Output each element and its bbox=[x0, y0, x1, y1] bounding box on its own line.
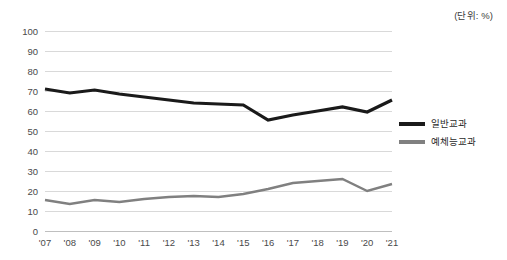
y-axis-tick-label: 30 bbox=[27, 166, 38, 177]
x-axis-tick-label: '19 bbox=[336, 237, 348, 248]
x-axis-tick-label: '08 bbox=[64, 237, 76, 248]
x-axis-tick-label: '18 bbox=[311, 237, 323, 248]
y-axis-tick-label: 50 bbox=[27, 126, 38, 137]
data-series-group bbox=[45, 89, 392, 204]
x-axis-tick-label: '20 bbox=[361, 237, 373, 248]
x-axis-tick-label: '13 bbox=[188, 237, 200, 248]
y-axis-tick-label: 100 bbox=[22, 26, 38, 37]
y-axis-tick-label: 0 bbox=[33, 226, 38, 237]
y-axis-tick-label: 70 bbox=[27, 86, 38, 97]
x-axis-tick-labels: '07'08'09'10'11'12'13'14'15'16'17'18'19'… bbox=[39, 237, 398, 248]
x-axis-tick-label: '11 bbox=[138, 237, 150, 248]
x-axis-tick-label: '07 bbox=[39, 237, 51, 248]
x-axis-tick-label: '12 bbox=[163, 237, 175, 248]
y-axis-tick-label: 60 bbox=[27, 106, 38, 117]
legend-label: 일반교과 bbox=[431, 118, 467, 130]
y-axis-tick-label: 90 bbox=[27, 46, 38, 57]
legend-swatch bbox=[399, 140, 425, 144]
legend-item[interactable]: 일반교과 bbox=[399, 118, 476, 130]
x-axis-tick-label: '16 bbox=[262, 237, 274, 248]
x-axis-tick-label: '15 bbox=[237, 237, 249, 248]
x-axis-tick-label: '09 bbox=[88, 237, 100, 248]
y-axis-tick-label: 20 bbox=[27, 186, 38, 197]
x-axis-tick-label: '14 bbox=[212, 237, 224, 248]
y-axis-tick-label: 10 bbox=[27, 206, 38, 217]
gridlines-group bbox=[45, 32, 392, 232]
y-axis-tick-label: 80 bbox=[27, 66, 38, 77]
y-axis-tick-label: 40 bbox=[27, 146, 38, 157]
series-line bbox=[45, 89, 392, 120]
x-axis-tick-label: '10 bbox=[113, 237, 125, 248]
chart-legend: 일반교과예체능교과 bbox=[399, 118, 476, 148]
legend-swatch bbox=[399, 122, 425, 126]
x-axis-tick-label: '21 bbox=[386, 237, 398, 248]
legend-item[interactable]: 예체능교과 bbox=[399, 136, 476, 148]
chart-container: (단위: %) 0102030405060708090100 '07'08'09… bbox=[0, 0, 507, 260]
y-axis-tick-labels: 0102030405060708090100 bbox=[22, 26, 38, 237]
legend-label: 예체능교과 bbox=[431, 136, 476, 148]
x-axis-tick-label: '17 bbox=[287, 237, 299, 248]
